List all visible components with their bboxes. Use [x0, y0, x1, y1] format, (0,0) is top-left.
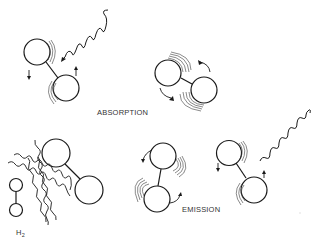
rotation-arrow-icon — [170, 192, 182, 203]
h2-molecule — [10, 179, 23, 217]
rotation-arrow-icon — [74, 66, 78, 76]
rotation-arrow-icon — [27, 70, 31, 80]
bond — [158, 169, 161, 186]
thermal-radiation-waves — [8, 140, 71, 225]
atom — [150, 143, 176, 169]
rotation-arrow-icon — [198, 60, 210, 72]
molecule-emission-outgoing — [216, 110, 310, 205]
bond — [46, 62, 58, 78]
atom — [53, 75, 79, 101]
molecule-emission-rotating — [135, 143, 186, 212]
atom — [144, 186, 170, 212]
rotation-arrow-icon — [160, 88, 174, 101]
motion-lines — [135, 156, 186, 202]
atom — [24, 39, 50, 65]
atom — [75, 176, 103, 204]
molecule-collision-target — [42, 139, 103, 204]
bond — [236, 163, 246, 178]
atom — [42, 139, 70, 167]
h2-label-subscript: 2 — [22, 232, 25, 238]
absorption-label: ABSORPTION — [97, 108, 148, 117]
rotation-arrow-icon — [216, 163, 220, 172]
speck — [299, 212, 301, 214]
emission-label: EMISSION — [182, 205, 220, 214]
molecule-absorption-incoming — [24, 10, 108, 104]
atom — [155, 60, 181, 86]
molecule-absorption-rotating — [155, 52, 217, 111]
absorption-emission-diagram — [0, 0, 322, 244]
atom — [241, 177, 267, 203]
h2-label: H2 — [16, 228, 25, 238]
photon-wave-incoming — [61, 10, 108, 62]
motion-lines — [47, 40, 58, 104]
rotation-arrow-icon — [262, 170, 266, 178]
atom — [191, 77, 217, 103]
photon-wave-outgoing — [260, 110, 310, 161]
atom — [10, 204, 23, 217]
atom — [10, 179, 23, 192]
bond — [181, 78, 192, 84]
atom — [217, 141, 242, 166]
